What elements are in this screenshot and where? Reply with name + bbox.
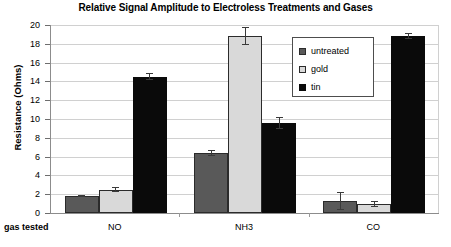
error-bar-untreated-NH3 [194, 150, 228, 156]
y-axis-tick-label: 6 [10, 153, 40, 162]
error-bar-cap-bottom [146, 79, 153, 80]
plot-area [50, 25, 439, 214]
error-bar-cap-bottom [371, 206, 378, 207]
error-bar-gold-NO [99, 187, 133, 192]
x-axis-category-CO: CO [333, 222, 413, 232]
y-axis-tick-label: 18 [10, 40, 40, 49]
error-bar-cap-bottom [276, 128, 283, 129]
legend-swatch-tin [299, 84, 306, 91]
bar-untreated-NH3 [194, 153, 228, 213]
y-axis-tick-label: 0 [10, 209, 40, 218]
x-axis-name: gas tested [4, 222, 49, 232]
legend-item-gold: gold [299, 63, 328, 75]
legend-swatch-untreated [299, 48, 306, 55]
legend-label: tin [311, 82, 321, 92]
bar-tin-NH3 [262, 123, 296, 213]
error-bar-cap-top [208, 150, 215, 151]
bar-gold-NH3 [228, 36, 262, 213]
error-bar-cap-bottom [208, 155, 215, 156]
error-bar-untreated-NO [65, 195, 99, 198]
error-bar-cap-top [371, 201, 378, 202]
error-bar-cap-bottom [242, 44, 249, 45]
y-axis-tick-label: 2 [10, 190, 40, 199]
error-bar-cap-bottom [405, 38, 412, 39]
y-axis-tick-label: 12 [10, 96, 40, 105]
error-bar-gold-CO [357, 201, 391, 208]
bar-chart: Relative Signal Amplitude to Electroless… [0, 0, 451, 247]
error-bar-gold-NH3 [228, 27, 262, 45]
y-axis-tick-label: 4 [10, 171, 40, 180]
legend: untreatedgoldtin [292, 37, 374, 97]
x-axis-category-NO: NO [75, 222, 155, 232]
error-bar-cap-top [112, 187, 119, 188]
bar-tin-NO [133, 77, 167, 213]
legend-item-tin: tin [299, 81, 321, 93]
x-axis-category-NH3: NH3 [204, 222, 284, 232]
error-bar-tin-NH3 [262, 117, 296, 129]
legend-swatch-gold [299, 66, 306, 73]
error-bar-cap-top [146, 73, 153, 74]
error-bar-cap-bottom [337, 209, 344, 210]
error-bar-cap-top [337, 192, 344, 193]
x-axis-tick-mark [309, 213, 310, 217]
y-axis-tick-label: 16 [10, 59, 40, 68]
plot-frame-top [51, 25, 439, 26]
y-axis-tick-label: 20 [10, 21, 40, 30]
bar-tin-CO [391, 36, 425, 213]
error-bar-cap-bottom [78, 196, 85, 197]
legend-label: gold [311, 64, 328, 74]
x-axis-tick-mark [179, 213, 180, 217]
error-bar-tin-CO [391, 33, 425, 39]
error-bar-cap-top [242, 27, 249, 28]
chart-title: Relative Signal Amplitude to Electroless… [0, 2, 451, 14]
error-bar-cap-top [405, 33, 412, 34]
y-axis-tick-label: 10 [10, 115, 40, 124]
error-bar-stem [340, 192, 341, 210]
error-bar-untreated-CO [323, 192, 357, 210]
error-bar-cap-bottom [112, 191, 119, 192]
legend-label: untreated [311, 46, 349, 56]
y-axis-tick-label: 14 [10, 77, 40, 86]
legend-item-untreated: untreated [299, 45, 349, 57]
bar-gold-NO [99, 190, 133, 214]
error-bar-stem [245, 27, 246, 45]
bar-untreated-NO [65, 196, 99, 213]
error-bar-cap-top [276, 117, 283, 118]
error-bar-tin-NO [133, 73, 167, 80]
y-axis-tick-label: 8 [10, 134, 40, 143]
